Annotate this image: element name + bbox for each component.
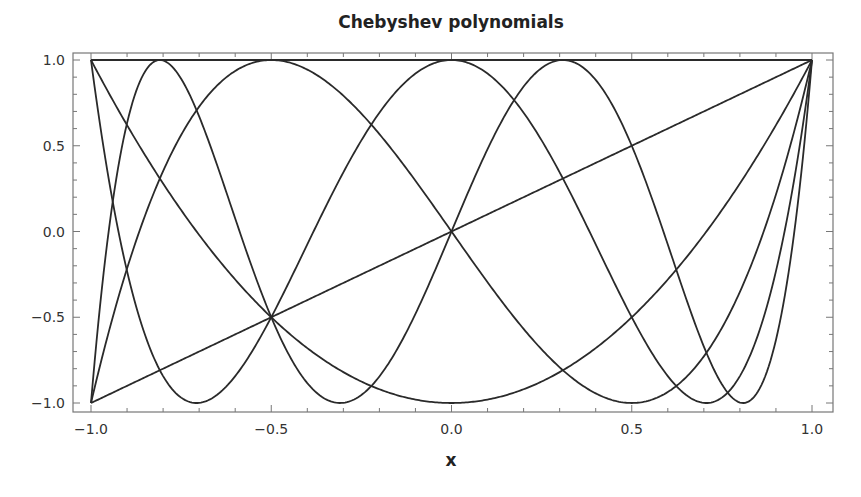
y-tick-label: 0.5: [43, 138, 65, 154]
y-tick-labels: −1.0−0.50.00.51.0: [31, 52, 65, 411]
polynomial-curves: [91, 60, 812, 403]
y-tick-label: −0.5: [31, 309, 65, 325]
chebyshev-chart: Chebyshev polynomials −1.0−0.50.00.51.0 …: [0, 0, 861, 497]
x-tick-label: 0.5: [621, 421, 643, 437]
x-tick-labels: −1.0−0.50.00.51.0: [74, 421, 823, 437]
y-tick-label: −1.0: [31, 395, 65, 411]
x-tick-label: −0.5: [254, 421, 288, 437]
x-tick-label: 0.0: [440, 421, 462, 437]
x-axis-label: x: [446, 450, 457, 470]
chart-title: Chebyshev polynomials: [338, 12, 564, 32]
x-tick-label: 1.0: [801, 421, 823, 437]
y-tick-label: 0.0: [43, 224, 65, 240]
x-tick-label: −1.0: [74, 421, 108, 437]
y-tick-label: 1.0: [43, 52, 65, 68]
